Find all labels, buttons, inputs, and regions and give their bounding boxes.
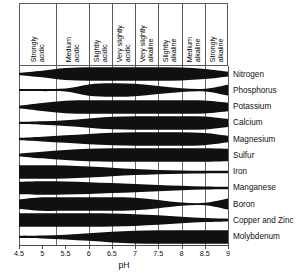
band-shape: [19, 196, 228, 212]
x-tick-label-4.5: 4.5: [14, 250, 24, 258]
ph-nutrient-availability-chart: StronglyacidicMediumacidicSlightlyacidic…: [0, 0, 299, 273]
ph-class-label: Very slightlyacidic: [116, 25, 131, 62]
band-shape: [19, 229, 228, 245]
nutrient-label-boron: Boron: [233, 200, 255, 209]
nutrient-label-manganese: Manganese: [233, 183, 276, 192]
nutrient-label-nitrogen: Nitrogen: [233, 70, 264, 79]
x-tick-label-6.5: 6.5: [107, 250, 117, 258]
nutrient-label-molybdenum: Molybdenum: [233, 232, 280, 241]
nutrient-label-potassium: Potassium: [233, 102, 271, 111]
band-path: [19, 165, 228, 179]
nutrient-label-sulfur: Sulfur: [233, 151, 254, 160]
ph-class-label-line2: acidic: [38, 36, 46, 62]
ph-class-label-line2: alkaline: [147, 25, 155, 62]
ph-class-label-line2: acidic: [101, 40, 109, 62]
x-tick-label-5.5: 5.5: [60, 250, 70, 258]
band-path: [19, 132, 228, 146]
nutrient-label-phosphorus: Phosphorus: [233, 86, 277, 95]
ph-class-cell-strongly-alkaline: Stronglyalkaline: [206, 4, 229, 65]
nutrient-band-phosphorus: [19, 82, 228, 98]
x-tick-label-7.5: 7.5: [153, 250, 163, 258]
ph-class-header-box: StronglyacidicMediumacidicSlightlyacidic…: [19, 3, 228, 66]
nutrient-band-molybdenum: [19, 229, 228, 245]
nutrient-label-iron: Iron: [233, 167, 247, 176]
ph-class-label: Slightlyalkaline: [163, 38, 178, 62]
band-path: [19, 197, 228, 211]
ph-class-label: Mediumacidic: [65, 37, 80, 62]
band-path: [19, 214, 228, 228]
ph-class-cell-slightly-alkaline: Slightlyalkaline: [159, 4, 182, 65]
band-shape: [19, 66, 228, 82]
ph-class-cell-medium-acidic: Mediumacidic: [57, 4, 90, 65]
nutrient-band-copper-and-zinc: [19, 212, 228, 228]
ph-class-cell-strongly-acidic: Stronglyacidic: [20, 4, 57, 65]
band-path: [19, 181, 228, 195]
ph-class-cell-very-slightly-alkaline: Very slightlyalkaline: [136, 4, 159, 65]
nutrient-band-manganese: [19, 180, 228, 196]
x-tick-label-8: 8: [180, 250, 184, 258]
nutrient-label-calcium: Calcium: [233, 118, 263, 127]
ph-class-label-line2: alkaline: [217, 36, 225, 62]
nutrient-band-calcium: [19, 115, 228, 131]
band-shape: [19, 147, 228, 163]
band-path: [19, 116, 228, 130]
ph-class-label-line2: alkaline: [194, 37, 202, 62]
ph-class-label-line2: alkaline: [170, 38, 178, 62]
ph-class-cell-slightly-acidic: Slightlyacidic: [90, 4, 113, 65]
band-shape: [19, 212, 228, 228]
band-shape: [19, 115, 228, 131]
band-shape: [19, 164, 228, 180]
band-shape: [19, 131, 228, 147]
ph-class-label: Slightlyacidic: [93, 40, 108, 62]
nutrient-label-copper-and-zinc: Copper and Zinc: [233, 216, 294, 225]
nutrient-band-sulfur: [19, 147, 228, 163]
ph-class-label: Mediumalkaline: [186, 37, 201, 62]
nutrient-band-potassium: [19, 99, 228, 115]
ph-class-label-line2: acidic: [124, 25, 132, 62]
ph-class-cell-very-slightly-acidic: Very slightlyacidic: [113, 4, 136, 65]
nutrient-label-magnesium: Magnesium: [233, 135, 275, 144]
nutrient-band-boron: [19, 196, 228, 212]
ph-class-label: Stronglyalkaline: [210, 36, 225, 62]
x-axis-line: [19, 245, 229, 246]
band-path: [19, 67, 228, 81]
nutrient-band-iron: [19, 164, 228, 180]
band-path: [19, 230, 228, 244]
x-axis-title: pH: [0, 260, 248, 270]
x-tick-label-6: 6: [87, 250, 91, 258]
nutrient-bands: [19, 66, 228, 245]
x-tick-label-9: 9: [226, 250, 230, 258]
ph-class-label: Very slightlyalkaline: [140, 25, 155, 62]
grid-line-ph-9: [228, 66, 229, 245]
x-tick-label-5: 5: [40, 250, 44, 258]
ph-class-cell-medium-alkaline: Mediumalkaline: [183, 4, 206, 65]
band-path: [19, 84, 228, 98]
band-shape: [19, 99, 228, 115]
nutrient-band-magnesium: [19, 131, 228, 147]
ph-class-label-line2: acidic: [73, 37, 81, 62]
nutrient-band-nitrogen: [19, 66, 228, 82]
band-path: [19, 100, 228, 114]
ph-class-label: Stronglyacidic: [30, 36, 45, 62]
x-tick-label-7: 7: [133, 250, 137, 258]
band-shape: [19, 82, 228, 98]
x-tick-label-8.5: 8.5: [200, 250, 210, 258]
band-path: [19, 149, 228, 163]
band-shape: [19, 180, 228, 196]
